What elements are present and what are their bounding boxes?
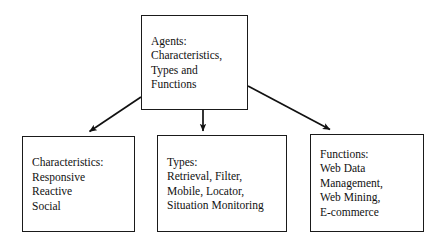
node-root-line-1: Agents: — [142, 34, 247, 49]
node-characteristics-line-2: Responsive — [23, 170, 134, 185]
node-functions[interactable]: Functions: Web Data Management, Web Mini… — [310, 134, 424, 232]
node-functions-line-1: Functions: — [311, 147, 423, 162]
node-types[interactable]: Types: Retrieval, Filter, Mobile, Locato… — [157, 135, 287, 232]
node-functions-line-5: E-commerce — [311, 205, 423, 220]
node-characteristics-line-1: Characteristics: — [23, 155, 134, 170]
diagram-canvas: Agents: Characteristics, Types and Funct… — [0, 0, 446, 250]
node-functions-line-3: Management, — [311, 176, 423, 191]
node-functions-line-2: Web Data — [311, 161, 423, 176]
node-characteristics[interactable]: Characteristics: Responsive Reactive Soc… — [22, 136, 135, 232]
node-functions-line-4: Web Mining, — [311, 190, 423, 205]
edge-root-to-characteristics — [90, 97, 142, 132]
node-root-line-4: Functions — [142, 77, 247, 92]
node-root[interactable]: Agents: Characteristics, Types and Funct… — [141, 15, 248, 110]
edge-root-to-functions — [248, 86, 330, 130]
node-types-line-2: Retrieval, Filter, — [158, 169, 286, 184]
node-types-line-4: Situation Monitoring — [158, 198, 286, 213]
node-root-line-3: Types and — [142, 63, 247, 78]
node-types-line-3: Mobile, Locator, — [158, 184, 286, 199]
node-root-line-2: Characteristics, — [142, 48, 247, 63]
node-types-line-1: Types: — [158, 155, 286, 170]
node-characteristics-line-4: Social — [23, 199, 134, 214]
node-characteristics-line-3: Reactive — [23, 184, 134, 199]
